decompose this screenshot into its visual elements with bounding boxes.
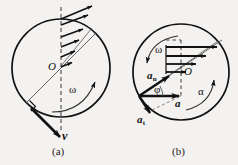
accel-tangential-label-base: a bbox=[137, 113, 143, 125]
center-label-a: O bbox=[48, 61, 56, 72]
omega-label-a: ω bbox=[69, 84, 76, 95]
diagram-svg bbox=[0, 0, 238, 165]
accel-tangential-vector-b bbox=[139, 96, 150, 113]
accel-normal-label-b: an bbox=[147, 70, 157, 83]
phi-label-b: φ bbox=[154, 84, 160, 95]
velocity-vector-group-a bbox=[61, 15, 88, 67]
panel-a-graphics bbox=[12, 6, 110, 137]
alpha-label-b: α bbox=[198, 86, 204, 97]
center-label-b: O bbox=[184, 66, 192, 77]
velocity-vector-3 bbox=[61, 40, 79, 47]
velocity-vector-top-a bbox=[61, 6, 92, 19]
phi-angle-arc-b bbox=[160, 86, 163, 96]
accel-resultant-label-b: a bbox=[175, 98, 181, 109]
figure-container: O ω v (a) O ω α φ a an at (b) bbox=[0, 0, 238, 165]
accel-tangential-label-b: at bbox=[137, 114, 145, 127]
velocity-envelope-a bbox=[61, 28, 92, 66]
caption-b: (b) bbox=[172, 145, 185, 157]
accel-normal-label-sub: n bbox=[153, 75, 157, 83]
omega-label-b: ω bbox=[155, 44, 162, 55]
velocity-label-a: v bbox=[62, 130, 67, 142]
accel-tangential-label-sub: t bbox=[143, 119, 146, 127]
velocity-vector-4 bbox=[61, 29, 83, 37]
velocity-vector-1 bbox=[61, 63, 72, 68]
caption-a: (a) bbox=[52, 145, 64, 157]
accel-normal-label-base: a bbox=[147, 69, 153, 81]
